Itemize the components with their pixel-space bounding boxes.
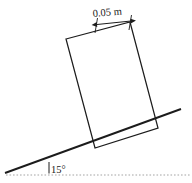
diagram-svg: 0.05 m 15°: [0, 0, 192, 183]
incline-angle-label: 15°: [51, 164, 66, 175]
diagram-canvas: 0.05 m 15°: [0, 0, 192, 183]
block-rectangle: [66, 22, 158, 148]
width-dimension-label: 0.05 m: [92, 5, 122, 19]
